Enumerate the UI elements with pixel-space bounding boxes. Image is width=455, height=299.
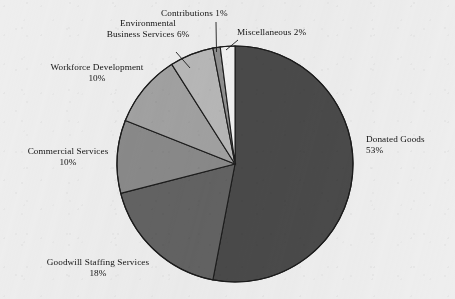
slice-label-environmental-line2-and-value: Business Services 6%	[90, 29, 206, 40]
slice-label-workforce-development-name: Workforce Development	[36, 62, 158, 73]
slice-label-goodwill-staffing-services-value: 18%	[38, 268, 158, 279]
slice-label-commercial-services-name: Commercial Services	[18, 146, 118, 157]
slice-label-donated-goods-name: Donated Goods	[366, 134, 425, 145]
pie-chart-page: Contributions 1% Miscellaneous 2% Enviro…	[0, 0, 455, 299]
slice-label-contributions-name: Contributions	[161, 8, 213, 18]
slice-label-environmental-line2: Business Services	[107, 29, 175, 39]
slice-label-commercial-services: Commercial Services 10%	[18, 146, 118, 169]
slice-label-miscellaneous-value: 2%	[294, 27, 306, 37]
slice-label-goodwill-staffing-services: Goodwill Staffing Services 18%	[38, 257, 158, 280]
slice-label-commercial-services-value: 10%	[18, 157, 118, 168]
slice-label-miscellaneous-name: Miscellaneous	[237, 27, 291, 37]
slice-label-donated-goods-value: 53%	[366, 145, 425, 156]
slice-label-environmental-value: 6%	[177, 29, 189, 39]
slice-label-environmental-line1: Environmental	[90, 18, 206, 29]
slice-label-donated-goods: Donated Goods 53%	[366, 134, 425, 157]
slice-label-contributions-value: 1%	[215, 8, 227, 18]
slice-label-workforce-development-value: 10%	[36, 73, 158, 84]
slice-label-workforce-development: Workforce Development 10%	[36, 62, 158, 85]
slice-label-miscellaneous: Miscellaneous 2%	[237, 27, 306, 38]
slice-label-goodwill-staffing-services-name: Goodwill Staffing Services	[38, 257, 158, 268]
slice-label-environmental-business-services: Environmental Business Services 6%	[90, 18, 206, 41]
leader-line-contributions	[216, 22, 217, 52]
